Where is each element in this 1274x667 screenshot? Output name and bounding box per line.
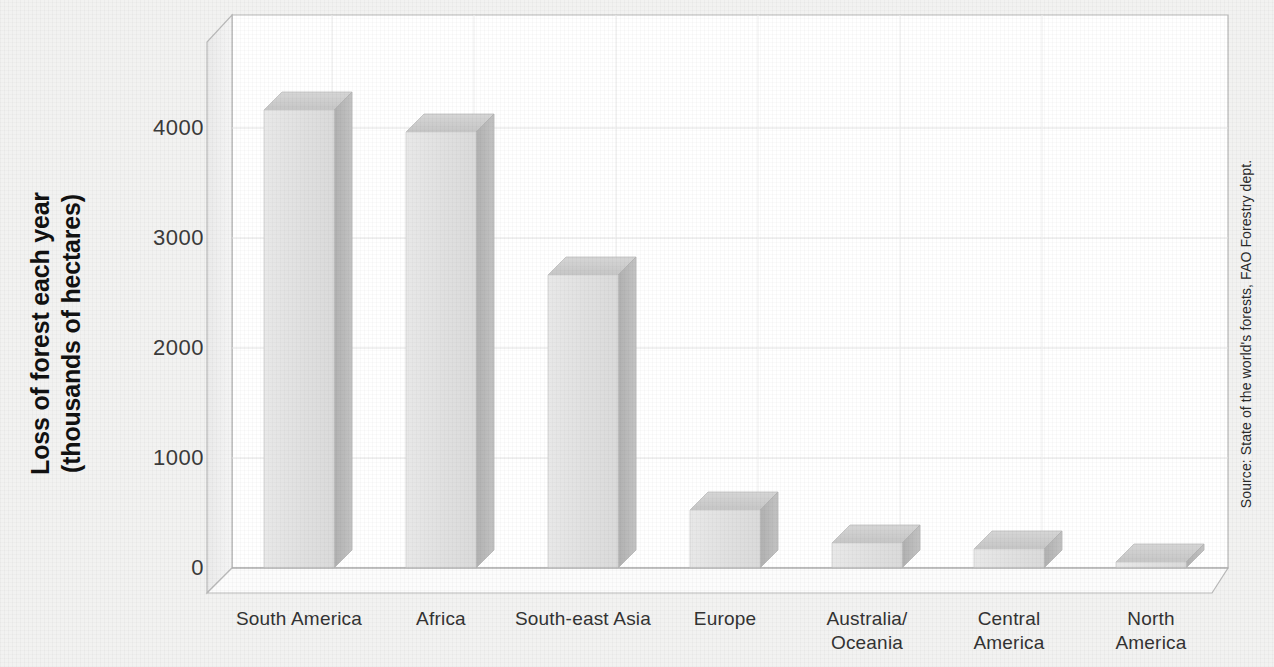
- x-label-europe: Europe: [650, 607, 800, 631]
- x-label-line: Africa: [366, 607, 516, 631]
- x-label-south-east-asia: South-east Asia: [508, 607, 658, 631]
- x-label-line: America: [1076, 631, 1226, 655]
- x-label-line: Oceania: [792, 631, 942, 655]
- x-label-line: Europe: [650, 607, 800, 631]
- x-label-line: America: [934, 631, 1084, 655]
- x-label-line: South America: [224, 607, 374, 631]
- x-label-australia-oceania: Australia/ Oceania: [792, 607, 942, 656]
- x-label-north-america: North America: [1076, 607, 1226, 656]
- x-label-africa: Africa: [366, 607, 516, 631]
- x-label-south-america: South America: [224, 607, 374, 631]
- x-label-line: Australia/: [792, 607, 942, 631]
- x-label-central-america: Central America: [934, 607, 1084, 656]
- x-label-line: South-east Asia: [508, 607, 658, 631]
- x-label-line: North: [1076, 607, 1226, 631]
- x-label-line: Central: [934, 607, 1084, 631]
- x-axis-category-labels: South America Africa South-east Asia Eur…: [0, 0, 1274, 667]
